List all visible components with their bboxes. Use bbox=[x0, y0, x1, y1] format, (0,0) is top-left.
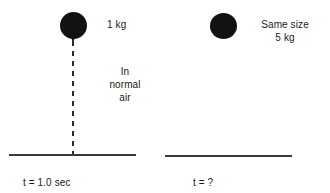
diagram-panel-left: 1 kg Innormalair t = 1.0 sec bbox=[0, 0, 165, 193]
medium-label-line-1: In bbox=[96, 65, 154, 78]
mass-label-left: 1 kg bbox=[107, 18, 126, 31]
diagram-panel-right: Same size5 kg t = ? bbox=[165, 0, 330, 193]
medium-label-line-3: air bbox=[96, 91, 154, 104]
dashed-fall-trajectory-line bbox=[72, 41, 74, 155]
ground-line-right bbox=[165, 155, 292, 157]
falling-ball-5kg-icon bbox=[210, 13, 237, 39]
time-label-left: t = 1.0 sec bbox=[23, 176, 71, 189]
mass-label-right: Same size5 kg bbox=[245, 18, 325, 44]
same-size-note: Same size bbox=[245, 18, 325, 31]
medium-label-left: Innormalair bbox=[96, 65, 154, 104]
ground-line-left bbox=[9, 154, 136, 156]
falling-ball-1kg-icon bbox=[60, 12, 87, 39]
mass-value-right: 5 kg bbox=[245, 31, 325, 44]
falling-objects-diagram: 1 kg Innormalair t = 1.0 sec Same size5 … bbox=[0, 0, 330, 193]
time-label-right: t = ? bbox=[193, 176, 213, 189]
medium-label-line-2: normal bbox=[96, 78, 154, 91]
